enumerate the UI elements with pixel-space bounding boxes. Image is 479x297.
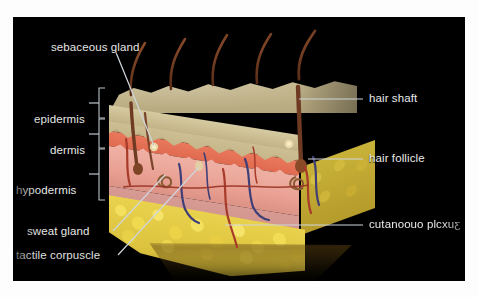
- label-dermis: dermis: [50, 144, 85, 157]
- label-cutaneous-plexus-text: cutanoouo plcxuƹ: [369, 218, 461, 231]
- label-sweat-gland: sweat gland: [27, 225, 89, 238]
- figure-page: epidermis dermis hypodermis sebaceous gl…: [0, 0, 479, 297]
- leader-tactile-corpuscle: [118, 167, 199, 255]
- label-tactile-corpuscle: tactile corpuscle: [16, 249, 100, 262]
- leader-sebaceous-gland: [115, 50, 154, 146]
- diagram-plate: epidermis dermis hypodermis sebaceous gl…: [13, 17, 465, 281]
- leader-sweat-gland: [113, 175, 165, 231]
- label-cutaneous-plexus: cutanoouo plcxuƹ: [369, 218, 461, 231]
- label-sebaceous-gland: sebaceous gland: [51, 41, 139, 54]
- label-hair-shaft: hair shaft: [369, 92, 417, 105]
- label-hypodermis: hypodermis: [16, 184, 76, 197]
- label-epidermis: epidermis: [34, 113, 85, 126]
- label-hair-follicle: hair follicle: [369, 152, 425, 165]
